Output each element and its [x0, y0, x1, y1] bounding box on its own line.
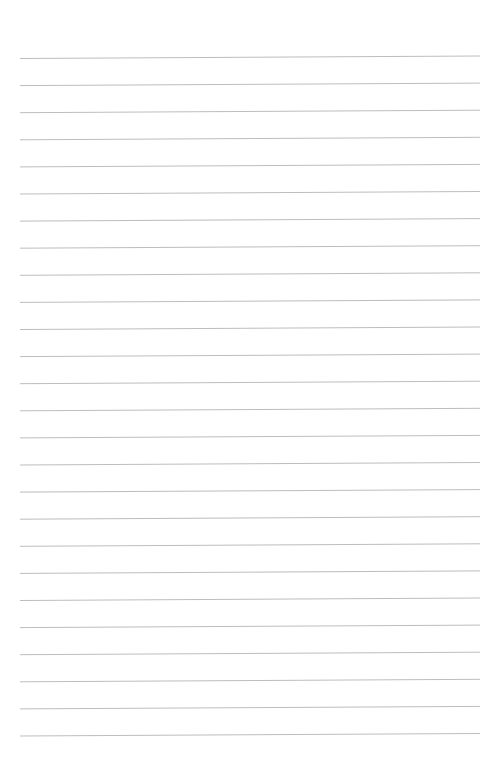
ruled-line	[20, 435, 480, 438]
ruled-line	[20, 408, 480, 411]
ruled-line	[20, 544, 480, 547]
ruled-line	[20, 463, 480, 466]
ruled-line	[20, 381, 480, 384]
ruled-line	[20, 706, 480, 709]
ruled-line	[20, 110, 480, 113]
ruled-line	[20, 625, 480, 628]
ruled-line	[20, 571, 480, 574]
ruled-line	[20, 192, 480, 195]
ruled-line	[20, 598, 480, 601]
ruled-line	[20, 734, 480, 737]
ruled-line	[20, 354, 480, 357]
ruled-line	[20, 490, 480, 493]
ruled-lines	[0, 0, 482, 783]
ruled-line	[20, 83, 480, 86]
ruled-line	[20, 56, 480, 59]
ruled-line	[20, 517, 480, 520]
ruled-line	[20, 137, 480, 140]
ruled-line	[20, 652, 480, 655]
ruled-line	[20, 273, 480, 276]
lined-paper-sheet	[0, 0, 482, 783]
ruled-line	[20, 164, 480, 167]
ruled-line	[20, 327, 480, 330]
ruled-line	[20, 219, 480, 222]
ruled-line	[20, 679, 480, 682]
ruled-line	[20, 246, 480, 249]
ruled-line	[20, 300, 480, 303]
